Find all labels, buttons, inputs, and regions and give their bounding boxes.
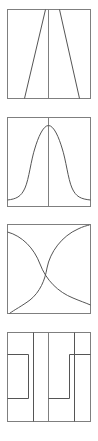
panel-gaussian-bell-curve	[0, 110, 98, 220]
panel-stack	[0, 0, 98, 441]
panel-rectilinear-step-brackets	[0, 330, 98, 440]
panel-converging-straight-lines	[0, 0, 98, 110]
panel-pinwheel-s-curves	[0, 220, 98, 330]
